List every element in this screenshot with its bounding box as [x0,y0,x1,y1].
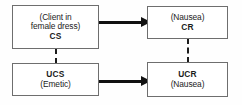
arrow-ucs-to-ucr-icon [99,76,151,87]
arrow-cs-to-cr-icon [99,17,151,28]
node-ucr-line1: (Nausea) [171,80,205,89]
node-cs: (Client in female dress) CS [12,5,99,49]
node-ucr: UCR (Nausea) [147,62,228,97]
node-ucs-line1: (Emetic) [40,80,70,89]
arrow-shaft [99,80,143,83]
node-cr-label: CR [181,23,194,32]
node-ucs: UCS (Emetic) [12,63,99,96]
dashed-link-cs-ucs-icon [55,48,57,64]
node-cr: (Nausea) CR [147,6,228,39]
dashed-link-cr-ucr-icon [187,38,189,63]
conditioning-diagram: (Client in female dress) CS (Nausea) CR … [0,0,242,105]
arrow-shaft [99,21,143,24]
node-cs-label: CS [49,32,61,41]
